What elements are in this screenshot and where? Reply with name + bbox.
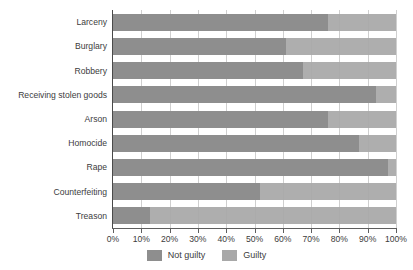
value-tick-label: 100%	[385, 234, 407, 245]
value-tickmark	[113, 229, 114, 233]
bar-series-group	[113, 10, 396, 228]
category-label: Rape	[0, 162, 107, 172]
category-axis: LarcenyBurglaryRobberyReceiving stolen g…	[0, 10, 110, 228]
bar-segment-not-guilty	[113, 135, 359, 152]
bar-segment-not-guilty	[113, 183, 260, 200]
bar-row	[113, 111, 396, 128]
bar-row	[113, 183, 396, 200]
bar-segment-guilty	[359, 135, 396, 152]
bar-row	[113, 14, 396, 31]
bar-row	[113, 135, 396, 152]
bar-segment-not-guilty	[113, 14, 328, 31]
bar-segment-not-guilty	[113, 159, 388, 176]
value-tick-label: 80%	[331, 234, 348, 245]
bar-segment-not-guilty	[113, 111, 328, 128]
legend-label: Not guilty	[168, 250, 206, 261]
bar-segment-guilty	[150, 207, 396, 224]
bar-segment-guilty	[376, 86, 396, 103]
value-tickmark	[141, 229, 142, 233]
value-tickmark	[368, 229, 369, 233]
bar-segment-not-guilty	[113, 38, 286, 55]
value-tickmark	[339, 229, 340, 233]
bar-row	[113, 38, 396, 55]
legend-swatch	[147, 250, 162, 261]
bar-segment-guilty	[260, 183, 396, 200]
plot-area	[113, 10, 396, 228]
bar-row	[113, 86, 396, 103]
bar-segment-guilty	[388, 159, 396, 176]
bar-row	[113, 207, 396, 224]
value-tickmark	[396, 229, 397, 233]
value-tick-label: 60%	[274, 234, 291, 245]
category-label: Larceny	[0, 17, 107, 27]
bar-segment-not-guilty	[113, 86, 376, 103]
value-tick-label: 20%	[161, 234, 178, 245]
value-tickmark	[198, 229, 199, 233]
value-tick-label: 50%	[246, 234, 263, 245]
legend-entry[interactable]: Guilty	[222, 250, 266, 261]
category-label: Robbery	[0, 66, 107, 76]
value-tickmark	[311, 229, 312, 233]
value-tick-label: 0%	[107, 234, 119, 245]
value-tickmark	[226, 229, 227, 233]
value-tickmark	[255, 229, 256, 233]
legend-entry[interactable]: Not guilty	[147, 250, 206, 261]
gridline	[396, 10, 397, 228]
category-label: Receiving stolen goods	[0, 90, 107, 100]
bar-segment-not-guilty	[113, 207, 150, 224]
bar-row	[113, 159, 396, 176]
value-tickmark	[170, 229, 171, 233]
value-tick-label: 40%	[218, 234, 235, 245]
bar-row	[113, 62, 396, 79]
bar-segment-not-guilty	[113, 62, 303, 79]
chart-legend: Not guiltyGuilty	[0, 250, 413, 261]
category-label: Treason	[0, 211, 107, 221]
category-axis-line	[112, 10, 113, 228]
legend-swatch	[222, 250, 237, 261]
category-label: Homocide	[0, 138, 107, 148]
category-label: Counterfeiting	[0, 187, 107, 197]
value-tick-label: 90%	[359, 234, 376, 245]
value-tickmark	[283, 229, 284, 233]
stacked-bar-chart: LarcenyBurglaryRobberyReceiving stolen g…	[0, 0, 413, 270]
legend-label: Guilty	[243, 250, 266, 261]
bar-segment-guilty	[286, 38, 396, 55]
category-label: Arson	[0, 114, 107, 124]
category-label: Burglary	[0, 41, 107, 51]
value-tick-label: 70%	[302, 234, 319, 245]
value-axis-tick-labels: 0%10%20%30%40%50%60%70%80%90%100%	[113, 234, 396, 246]
bar-segment-guilty	[328, 111, 396, 128]
bar-segment-guilty	[303, 62, 396, 79]
value-tick-label: 30%	[189, 234, 206, 245]
bar-segment-guilty	[328, 14, 396, 31]
value-tick-label: 10%	[133, 234, 150, 245]
value-axis-ticks	[113, 229, 396, 233]
